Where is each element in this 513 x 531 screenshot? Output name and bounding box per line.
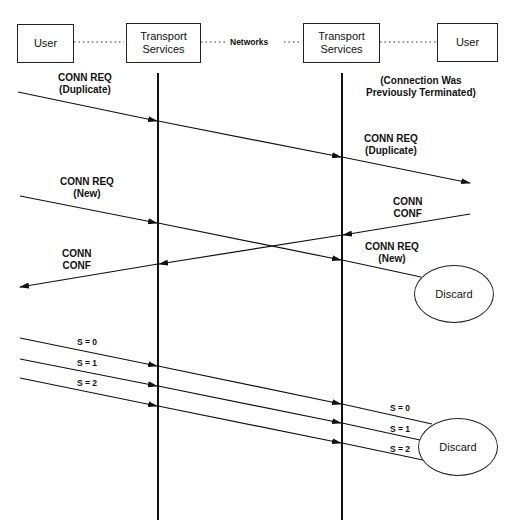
text: (Duplicate) (58, 84, 112, 96)
conn-conf-left-label: CONN CONF (62, 248, 91, 272)
text: CONN (393, 196, 422, 208)
previously-terminated-label: (Connection Was Previously Terminated) (366, 75, 476, 99)
discard-label-1: Discard (435, 288, 472, 300)
ts-left-line1: Transport (140, 30, 187, 43)
user-right-box: User (437, 23, 498, 62)
discard-ellipse-2: Discard (418, 418, 498, 476)
user-left-label: User (34, 37, 57, 50)
ts-right-line2: Services (320, 43, 362, 56)
transport-services-right-box: Transport Services (303, 23, 380, 63)
user-left-box: User (17, 24, 74, 63)
text: (New) (365, 253, 419, 265)
text: (Connection Was (366, 75, 476, 87)
text: (New) (60, 188, 114, 200)
text: CONF (62, 260, 91, 272)
text: CONN (62, 248, 91, 260)
text: (Duplicate) (364, 145, 418, 157)
text: CONN REQ (60, 176, 114, 188)
s2-right-label: S = 2 (390, 443, 410, 455)
conn-req-new-right-label: CONN REQ (New) (365, 241, 419, 265)
text: CONN REQ (365, 241, 419, 253)
s1-right-label: S = 1 (390, 423, 410, 435)
conn-req-new-left-label: CONN REQ (New) (60, 176, 114, 200)
discard-label-2: Discard (439, 441, 476, 453)
s0-right-label: S = 0 (390, 402, 410, 414)
s0-left-label: S = 0 (77, 336, 97, 348)
text: Previously Terminated) (366, 87, 476, 99)
conn-conf-right-label: CONN CONF (393, 196, 422, 220)
conn-req-dup-left-label: CONN REQ (Duplicate) (58, 72, 112, 96)
text: CONN REQ (364, 133, 418, 145)
networks-label: Networks (230, 36, 268, 48)
text: CONN REQ (58, 72, 112, 84)
conn-req-dup-right-label: CONN REQ (Duplicate) (364, 133, 418, 157)
user-right-label: User (456, 36, 479, 49)
transport-services-left-box: Transport Services (126, 23, 201, 63)
ts-right-line1: Transport (318, 30, 365, 43)
s2-left-label: S = 2 (77, 377, 97, 389)
text: CONF (393, 208, 422, 220)
discard-ellipse-1: Discard (414, 265, 494, 323)
ts-left-line2: Services (142, 43, 184, 56)
s1-left-label: S = 1 (77, 357, 97, 369)
